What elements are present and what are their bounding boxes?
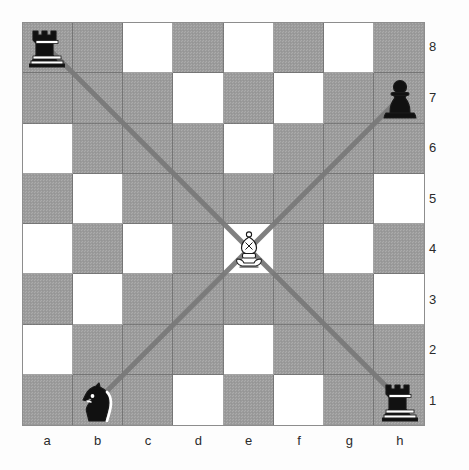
square-d5[interactable]	[173, 174, 223, 224]
square-f3[interactable]	[274, 274, 324, 324]
square-d3[interactable]	[173, 274, 223, 324]
square-a3[interactable]	[23, 274, 73, 324]
square-b6[interactable]	[73, 124, 123, 174]
chess-board-wrapper	[22, 22, 425, 426]
square-e2[interactable]	[224, 325, 274, 375]
square-f8[interactable]	[274, 23, 324, 73]
square-g2[interactable]	[324, 325, 374, 375]
square-d2[interactable]	[173, 325, 223, 375]
rank-label-7: 7	[429, 91, 445, 104]
square-a1[interactable]	[23, 375, 73, 425]
rank-label-4: 4	[429, 242, 445, 255]
file-label-e: e	[224, 434, 274, 447]
square-g1[interactable]	[324, 375, 374, 425]
square-e8[interactable]	[224, 23, 274, 73]
rank-label-1: 1	[429, 394, 445, 407]
square-d4[interactable]	[173, 224, 223, 274]
file-label-f: f	[274, 434, 324, 447]
square-a6[interactable]	[23, 124, 73, 174]
square-c5[interactable]	[123, 174, 173, 224]
square-a7[interactable]	[23, 73, 73, 123]
square-e1[interactable]	[224, 375, 274, 425]
square-b3[interactable]	[73, 274, 123, 324]
square-f1[interactable]	[274, 375, 324, 425]
square-c6[interactable]	[123, 124, 173, 174]
file-label-h: h	[375, 434, 425, 447]
square-h3[interactable]	[374, 274, 424, 324]
square-c4[interactable]	[123, 224, 173, 274]
square-c8[interactable]	[123, 23, 173, 73]
chess-diagram-page: abcdefgh 87654321	[0, 0, 469, 470]
square-e6[interactable]	[224, 124, 274, 174]
square-g6[interactable]	[324, 124, 374, 174]
square-f6[interactable]	[274, 124, 324, 174]
square-b7[interactable]	[73, 73, 123, 123]
square-d7[interactable]	[173, 73, 223, 123]
square-d6[interactable]	[173, 124, 223, 174]
square-f2[interactable]	[274, 325, 324, 375]
square-d1[interactable]	[173, 375, 223, 425]
square-b1[interactable]	[73, 375, 123, 425]
rank-label-8: 8	[429, 40, 445, 53]
chess-board[interactable]	[22, 22, 425, 426]
square-b8[interactable]	[73, 23, 123, 73]
square-g7[interactable]	[324, 73, 374, 123]
square-h8[interactable]	[374, 23, 424, 73]
square-e3[interactable]	[224, 274, 274, 324]
rank-label-6: 6	[429, 141, 445, 154]
square-h5[interactable]	[374, 174, 424, 224]
square-h2[interactable]	[374, 325, 424, 375]
square-b5[interactable]	[73, 174, 123, 224]
rank-label-2: 2	[429, 343, 445, 356]
file-label-c: c	[123, 434, 173, 447]
square-f5[interactable]	[274, 174, 324, 224]
square-g5[interactable]	[324, 174, 374, 224]
file-label-b: b	[72, 434, 122, 447]
square-a8[interactable]	[23, 23, 73, 73]
square-f4[interactable]	[274, 224, 324, 274]
rank-label-5: 5	[429, 192, 445, 205]
file-label-d: d	[173, 434, 223, 447]
square-h6[interactable]	[374, 124, 424, 174]
square-d8[interactable]	[173, 23, 223, 73]
square-a2[interactable]	[23, 325, 73, 375]
rank-label-3: 3	[429, 293, 445, 306]
square-e5[interactable]	[224, 174, 274, 224]
square-c7[interactable]	[123, 73, 173, 123]
square-f7[interactable]	[274, 73, 324, 123]
square-b2[interactable]	[73, 325, 123, 375]
square-g8[interactable]	[324, 23, 374, 73]
square-c2[interactable]	[123, 325, 173, 375]
square-a5[interactable]	[23, 174, 73, 224]
square-b4[interactable]	[73, 224, 123, 274]
square-c1[interactable]	[123, 375, 173, 425]
square-e7[interactable]	[224, 73, 274, 123]
square-h4[interactable]	[374, 224, 424, 274]
square-g3[interactable]	[324, 274, 374, 324]
square-c3[interactable]	[123, 274, 173, 324]
square-a4[interactable]	[23, 224, 73, 274]
square-h7[interactable]	[374, 73, 424, 123]
file-label-g: g	[324, 434, 374, 447]
square-g4[interactable]	[324, 224, 374, 274]
square-e4[interactable]	[224, 224, 274, 274]
file-label-a: a	[22, 434, 72, 447]
square-h1[interactable]	[374, 375, 424, 425]
